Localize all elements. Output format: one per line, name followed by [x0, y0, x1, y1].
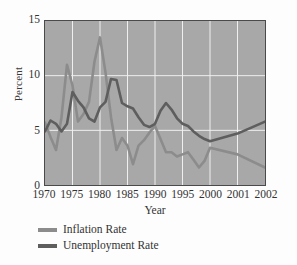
chart-legend: Inflation RateUnemployment Rate: [38, 222, 278, 254]
legend-item: Unemployment Rate: [38, 238, 278, 253]
chart-figure: Percent 051015 1970197519801985199019952…: [0, 0, 297, 265]
x-tick-label: 1995: [171, 188, 194, 201]
x-tick-label: 2001: [227, 188, 250, 201]
x-tick-label: 1970: [33, 188, 56, 201]
x-tick-label: 1985: [116, 188, 139, 201]
y-tick-label: 10: [16, 69, 40, 80]
y-tick-label: 5: [16, 125, 40, 136]
x-tick-label: 2000: [199, 188, 222, 201]
y-tick-label: 15: [16, 14, 40, 25]
x-axis-title: Year: [44, 204, 266, 216]
x-tick-label: 1990: [144, 188, 167, 201]
legend-label: Unemployment Rate: [63, 239, 159, 252]
plot-area: [44, 20, 266, 186]
legend-item: Inflation Rate: [38, 222, 278, 237]
x-axis-tick-labels: 197019751980198519901995200020012002: [44, 188, 266, 204]
legend-label: Inflation Rate: [63, 223, 127, 236]
x-tick-label: 1980: [88, 188, 111, 201]
x-tick-label: 1975: [60, 188, 83, 201]
y-axis-tick-labels: 051015: [14, 0, 40, 265]
chart-svg: [45, 21, 265, 185]
legend-swatch-icon: [38, 228, 57, 232]
legend-swatch-icon: [38, 244, 57, 248]
x-tick-label: 2002: [255, 188, 278, 201]
